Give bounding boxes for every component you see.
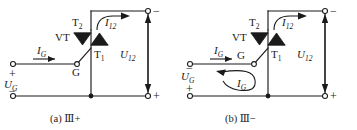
panel-b-load-sign-top: − [330,4,337,18]
panel-a-source-terminal-top [11,62,16,67]
panel-b-source-sign-bottom: + [186,82,193,96]
panel-b-triac-triangle-upper [251,33,268,45]
panel-a-main-current-label: I12 [104,16,116,31]
panel-a-load-sign-bottom: + [153,89,160,103]
panel-a-caption: (a) Ⅲ+ [50,113,80,125]
panel-b-load-sign-bottom: + [330,89,337,103]
panel-a-triac-triangle-lower [91,33,108,45]
panel-a-main-voltage-label: U12 [120,48,136,63]
panel-a-junction-node [89,94,94,99]
panel-b-loop-current-arrow [216,70,255,91]
panel-a-gate-current-label: IG [36,44,47,59]
panel-b-loop-current-label: IG [236,77,247,92]
panel-b-junction-node [266,94,271,99]
panel-b-terminal-top-label: T2 [249,16,260,31]
panel-a-source-sign-bottom: − [9,84,16,98]
panel-b-terminal-bottom-label: T1 [271,48,282,63]
panel-a-triac-triangle-upper [74,33,91,45]
panel-b-load-terminal-bottom [323,94,328,99]
panel-b-main-voltage-label: U12 [297,48,313,63]
panel-b-device-label: VT [232,31,247,43]
panel-a-source-sign-top: + [9,67,16,81]
panel-b-gate-label: G [237,49,245,61]
panel-a-terminal-top-label: T2 [72,16,83,31]
panel-a-load-terminal-top [146,9,151,14]
figure-container: VT T2 T1 G IG I12 U12 UG + − − + (a) Ⅲ+ [0,0,357,130]
panel-b-triac-triangle-lower [268,33,285,45]
panel-b-load-terminal-top [323,9,328,14]
panel-a-gate-label: G [72,66,80,78]
panel-b-source-sign-top: − [186,61,193,75]
panel-a: VT T2 T1 G IG I12 U12 UG + − − + (a) Ⅲ+ [4,4,160,125]
panel-b-caption: (b) Ⅲ− [225,113,256,125]
panel-b: VT T2 T1 G IG IG I12 U12 UG − + − + (b) … [181,4,337,125]
panel-b-gate-lead [254,48,268,64]
panel-a-load-terminal-bottom [146,94,151,99]
panel-b-main-current-label: I12 [281,16,293,31]
circuit-diagram-svg: VT T2 T1 G IG I12 U12 UG + − − + (a) Ⅲ+ [0,0,357,130]
panel-a-gate-lead [77,48,91,64]
panel-b-gate-current-label: IG [213,44,224,59]
panel-b-main-voltage-arrow [322,14,328,93]
panel-b-gate-terminal [252,62,257,67]
panel-a-terminal-bottom-label: T1 [94,48,105,63]
panel-a-main-voltage-arrow [145,14,151,93]
panel-a-load-sign-top: − [153,4,160,18]
panel-a-device-label: VT [55,31,70,43]
